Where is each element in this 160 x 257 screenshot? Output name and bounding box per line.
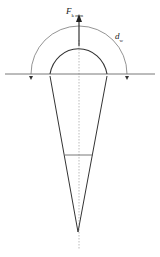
arc-arrowhead-right — [125, 76, 129, 80]
cone — [50, 76, 107, 232]
force-label: Fk mm — [66, 6, 83, 18]
dome — [50, 49, 107, 74]
tool-tip-diagram — [0, 0, 160, 257]
force-label-subscript: k mm — [72, 13, 84, 18]
diameter-label-subscript: w — [120, 38, 124, 43]
diameter-label: dw — [115, 31, 123, 43]
arc-arrowhead-left — [29, 76, 33, 80]
